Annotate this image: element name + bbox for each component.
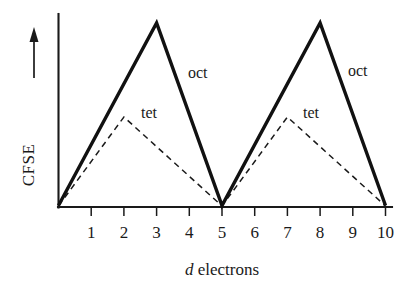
x-tick-label-3: 3 [152, 223, 161, 242]
x-tick-label-5: 5 [218, 223, 227, 242]
annotation-oct-second: oct [348, 62, 368, 79]
x-tick-label-2: 2 [120, 223, 129, 242]
y-axis-title: CFSE [19, 144, 38, 187]
annotation-tet-second: tet [303, 104, 320, 121]
x-tick-label-4: 4 [185, 223, 194, 242]
chart-background [0, 0, 417, 294]
annotation-tet-first: tet [141, 104, 158, 121]
x-axis-title-text: electrons [193, 260, 259, 279]
x-axis-title: d electrons [185, 260, 259, 279]
x-tick-label-9: 9 [349, 223, 358, 242]
x-tick-label-10: 10 [377, 223, 394, 242]
cfse-chart-figure: CFSE 1 2 3 4 5 6 7 8 9 [0, 0, 417, 294]
x-axis-title-group: d electrons [185, 260, 259, 279]
x-tick-label-7: 7 [283, 223, 292, 242]
x-tick-label-1: 1 [87, 223, 96, 242]
x-tick-label-8: 8 [316, 223, 325, 242]
x-tick-label-6: 6 [250, 223, 259, 242]
annotation-oct-first: oct [188, 64, 208, 81]
